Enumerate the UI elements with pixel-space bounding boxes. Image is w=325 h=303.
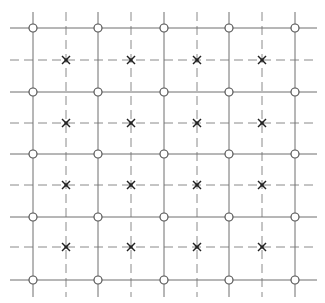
grid-diagram	[0, 0, 325, 303]
circle-marker-icon	[160, 88, 168, 96]
circle-marker-icon	[29, 276, 37, 284]
circle-marker-icon	[94, 24, 102, 32]
circle-marker-icon	[291, 24, 299, 32]
circle-marker-icon	[225, 88, 233, 96]
circle-marker-icon	[291, 88, 299, 96]
circle-marker-icon	[225, 24, 233, 32]
circle-marker-icon	[225, 276, 233, 284]
circle-marker-icon	[160, 24, 168, 32]
circle-marker-icon	[94, 88, 102, 96]
circle-marker-icon	[160, 150, 168, 158]
circle-marker-icon	[29, 88, 37, 96]
circle-marker-icon	[94, 150, 102, 158]
circle-marker-icon	[291, 150, 299, 158]
circle-marker-icon	[160, 276, 168, 284]
circle-marker-icon	[225, 150, 233, 158]
circle-marker-icon	[29, 150, 37, 158]
circle-marker-icon	[94, 213, 102, 221]
circle-marker-icon	[160, 213, 168, 221]
circle-marker-icon	[94, 276, 102, 284]
circle-marker-icon	[29, 213, 37, 221]
circle-marker-icon	[291, 213, 299, 221]
circle-marker-icon	[29, 24, 37, 32]
circle-marker-icon	[225, 213, 233, 221]
circle-marker-icon	[291, 276, 299, 284]
